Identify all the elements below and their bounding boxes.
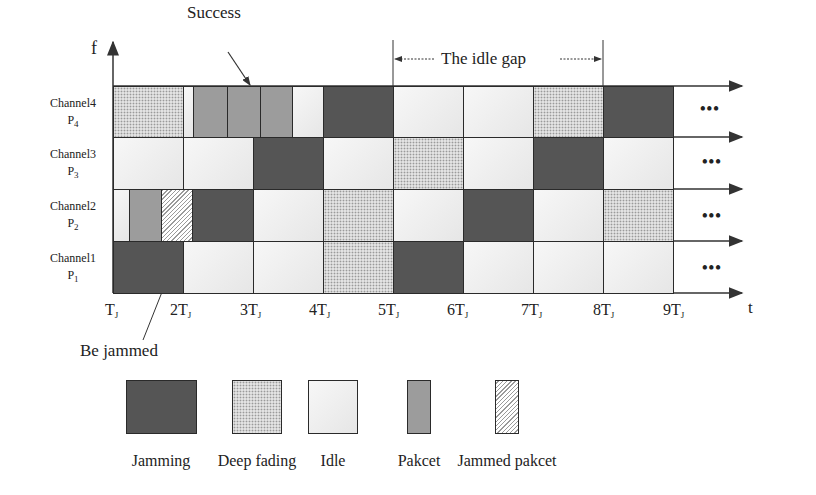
legend-label-jammed-packet: Jammed pakcet bbox=[437, 452, 577, 470]
legend-swatch-idle bbox=[308, 380, 358, 434]
x-tick-2: 2TJ bbox=[170, 301, 191, 320]
cell-ch1-slot2 bbox=[183, 241, 254, 294]
cell-ch4-slot4 bbox=[323, 86, 394, 138]
cell-ch4-packet-3 bbox=[260, 86, 293, 138]
f-axis-label: f bbox=[91, 38, 97, 59]
x-tick-4: 4TJ bbox=[309, 301, 330, 320]
success-arrow bbox=[228, 52, 250, 85]
cell-ch3-slot8 bbox=[603, 137, 674, 190]
cell-ch3-slot6 bbox=[463, 137, 534, 190]
cell-ch2-slot3 bbox=[253, 189, 324, 242]
cell-ch2-jammed-packet bbox=[161, 189, 193, 242]
legend-swatch-deep-fading bbox=[232, 380, 282, 434]
be-jammed-annotation: Be jammed bbox=[80, 341, 158, 361]
idle-gap-annotation: The idle gap bbox=[438, 49, 529, 69]
cell-ch4-slot3-idle bbox=[292, 86, 324, 138]
cell-ch1-slot7 bbox=[533, 241, 604, 294]
cell-ch3-slot5 bbox=[393, 137, 464, 190]
channel-label-3: Channel3 P3 bbox=[38, 146, 108, 184]
cell-ch1-slot4 bbox=[323, 241, 394, 294]
cell-ch1-slot3 bbox=[253, 241, 324, 294]
x-tick-6: 6TJ bbox=[447, 301, 468, 320]
cell-ch3-slot3 bbox=[253, 137, 324, 190]
continuation-ch2: ••• bbox=[702, 207, 722, 225]
cell-ch1-slot8 bbox=[603, 241, 674, 294]
cell-ch4-slot6 bbox=[463, 86, 534, 138]
cell-ch4-slot5 bbox=[393, 86, 464, 138]
channel-label-4: Channel4 P4 bbox=[38, 95, 108, 133]
cell-ch2-slot8 bbox=[603, 189, 674, 242]
continuation-ch3: ••• bbox=[702, 153, 722, 171]
legend-swatch-jammed-packet bbox=[495, 380, 519, 434]
x-tick-1: TJ bbox=[105, 301, 118, 320]
cell-ch3-slot7 bbox=[533, 137, 604, 190]
x-tick-8: 8TJ bbox=[593, 301, 614, 320]
cell-ch2-packet bbox=[129, 189, 162, 242]
cell-ch4-packet-1 bbox=[193, 86, 228, 138]
cell-ch2-slot6 bbox=[463, 189, 534, 242]
cell-ch2-slot7 bbox=[533, 189, 604, 242]
x-tick-5: 5TJ bbox=[378, 301, 399, 320]
channel-label-2: Channel2 P2 bbox=[38, 198, 108, 236]
cell-ch2-slot4 bbox=[323, 189, 394, 242]
channel-label-1: Channel1 P1 bbox=[38, 250, 108, 288]
t-axis-label: t bbox=[748, 298, 753, 318]
x-tick-7: 7TJ bbox=[521, 301, 542, 320]
cell-ch1-slot5 bbox=[393, 241, 464, 294]
success-annotation: Success bbox=[187, 3, 241, 23]
cell-ch3-slot1 bbox=[113, 137, 184, 190]
x-tick-3: 3TJ bbox=[240, 301, 261, 320]
cell-ch1-slot6 bbox=[463, 241, 534, 294]
cell-ch4-slot8 bbox=[603, 86, 674, 138]
cell-ch2-slot5 bbox=[393, 189, 464, 242]
legend-swatch-jamming bbox=[126, 380, 197, 434]
cell-ch3-slot2 bbox=[183, 137, 254, 190]
cell-ch2-slot2 bbox=[192, 189, 254, 242]
cell-ch2-slot1-idle bbox=[113, 189, 130, 242]
cell-ch4-slot7 bbox=[533, 86, 604, 138]
cell-ch1-slot1 bbox=[113, 241, 184, 294]
cell-ch3-slot4 bbox=[323, 137, 394, 190]
continuation-ch1: ••• bbox=[702, 259, 722, 277]
cell-ch4-packet-2 bbox=[227, 86, 261, 138]
x-tick-9: 9TJ bbox=[663, 301, 684, 320]
legend-swatch-packet bbox=[407, 380, 431, 434]
continuation-ch4: ••• bbox=[700, 100, 720, 118]
cell-ch4-slot1 bbox=[113, 86, 184, 138]
